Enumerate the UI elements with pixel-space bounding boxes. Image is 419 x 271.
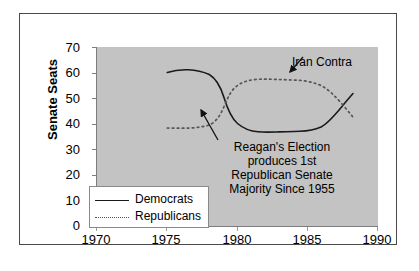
y-tick-label-70: 70: [54, 41, 80, 54]
x-tick-mark-1980: [237, 227, 238, 231]
x-tick-label-1980: 1980: [212, 233, 262, 246]
chart-figure: Senate Seats 70 60 50 40 30 20 10 0: [0, 0, 419, 271]
legend-swatch-dotted-icon: [95, 212, 129, 222]
annotation-reagan-line-1: Reagan's Election: [216, 140, 348, 154]
x-tick-label-1990: 1990: [352, 233, 402, 246]
legend-item-democrats: Democrats: [95, 191, 203, 208]
x-tick-mark-1990: [377, 227, 378, 231]
y-tick-label-60: 60: [54, 66, 80, 79]
chart-frame: Senate Seats 70 60 50 40 30 20 10 0: [19, 13, 397, 245]
x-tick-label-1975: 1975: [141, 233, 191, 246]
series-republicans-line: [167, 79, 353, 128]
x-tick-mark-1985: [307, 227, 308, 231]
x-tick-label-1985: 1985: [282, 233, 332, 246]
annotation-iran-contra-line-1: Iran Contra: [292, 55, 382, 69]
annotation-reagan-election: Reagan's Election produces 1st Republica…: [216, 140, 348, 196]
annotation-iran-contra: Iran Contra: [292, 55, 382, 69]
annotation-reagan-line-4: Majority Since 1955: [216, 182, 348, 196]
y-tick-label-30: 30: [54, 143, 80, 156]
legend-label-democrats: Democrats: [135, 193, 193, 206]
legend-label-republicans: Republicans: [135, 210, 201, 223]
legend-item-republicans: Republicans: [95, 208, 203, 225]
y-tick-label-20: 20: [54, 168, 80, 181]
chart-legend: Democrats Republicans: [89, 186, 209, 228]
y-tick-label-0: 0: [54, 219, 80, 232]
legend-swatch-solid-icon: [95, 195, 129, 205]
annotation-reagan-line-3: Republican Senate: [216, 168, 348, 182]
y-tick-label-40: 40: [54, 117, 80, 130]
y-tick-label-10: 10: [54, 194, 80, 207]
y-tick-label-50: 50: [54, 92, 80, 105]
x-tick-label-1970: 1970: [71, 233, 121, 246]
annotation-reagan-line-2: produces 1st: [216, 154, 348, 168]
